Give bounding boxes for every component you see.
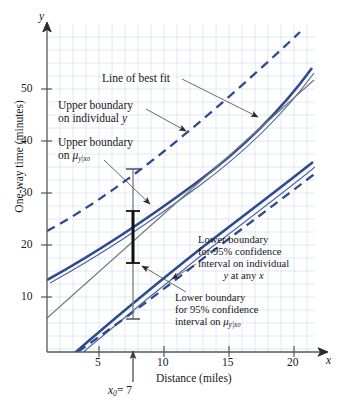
annotation-upper-boundary-individual-y: Upper boundary on individual y: [58, 99, 133, 125]
mu-subscript-upper: y|x: [78, 154, 87, 163]
annotation-upper-individual-line1: Upper boundary: [58, 99, 133, 112]
annotation-lower-individual-line1: Lower boundary: [198, 234, 289, 246]
chart-canvas: [0, 0, 346, 404]
annotation-line-of-best-fit: Line of best fit: [102, 72, 170, 85]
x-tick-label-20: 20: [287, 356, 299, 369]
y-tick-label-20: 20: [21, 238, 33, 251]
x-tick-label-5: 5: [95, 356, 101, 369]
regression-confidence-interval-figure: 10 20 30 40 50 5 10 15 20 y x Distance (…: [0, 0, 346, 404]
annotation-lower-mu-line3: interval on μy|x0: [175, 316, 259, 330]
y-axis-title: One-way time (minutes): [13, 86, 26, 226]
x-tick-label-10: 10: [157, 356, 169, 369]
annotation-lower-boundary-individual-y: Lower boundary for 95% confidence interv…: [198, 234, 289, 281]
annotation-upper-boundary-mu: Upper boundary on μy|x0: [58, 136, 133, 164]
leader-upper-individual: [146, 109, 186, 131]
x0-equals: = 7: [117, 384, 132, 396]
leader-lower-individual: [172, 264, 196, 279]
leader-upper-mu: [104, 160, 150, 204]
annotation-upper-mu-line2: on μy|x0: [58, 149, 133, 164]
annotation-lower-individual-line2: for 95% confidence: [198, 246, 289, 258]
x0-value-label: x0= 7: [108, 384, 132, 399]
annotation-lower-mu-line1: Lower boundary: [175, 292, 259, 304]
annotation-lower-boundary-mu: Lower boundary for 95% confidence interv…: [175, 292, 259, 329]
annotation-lower-individual-line4: y at any x: [198, 270, 289, 282]
x-tick-label-15: 15: [222, 356, 234, 369]
leader-best-fit: [182, 79, 258, 117]
x-axis-variable-name: x: [326, 354, 331, 367]
annotation-lower-individual-line3: interval on individual: [198, 258, 289, 270]
annotation-lower-mu-line2: for 95% confidence: [175, 304, 259, 316]
annotation-upper-mu-line1: Upper boundary: [58, 136, 133, 149]
annotation-upper-individual-line2: on individual y: [58, 112, 133, 125]
y-axis-variable-name: y: [39, 10, 44, 23]
y-tick-label-10: 10: [21, 290, 33, 303]
x-axis-title: Distance (miles): [156, 372, 232, 385]
